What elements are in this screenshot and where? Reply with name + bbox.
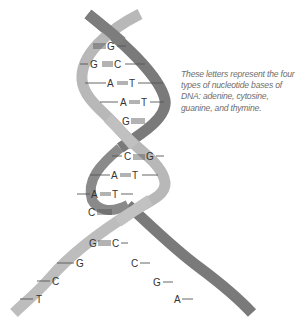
base-label: A: [91, 189, 98, 200]
base-label: G: [89, 238, 97, 249]
base-label: T: [129, 78, 135, 89]
base-label: A: [174, 294, 181, 305]
diagram-caption: These letters represent the four types o…: [181, 69, 301, 114]
base-label: G: [76, 258, 84, 269]
base-label: T: [132, 170, 138, 181]
base-label: C: [52, 276, 59, 287]
dark-strand-middle: [91, 148, 128, 210]
base-label: G: [107, 41, 115, 52]
base-label: A: [120, 97, 127, 108]
base-label: G: [146, 151, 154, 162]
base-label: G: [90, 59, 98, 70]
dark-strand-upper: [88, 14, 165, 148]
dna-helix-diagram: G G C A T A T G C G A T A T C G C G C T …: [0, 0, 305, 323]
base-label: C: [88, 207, 95, 218]
dark-strand-lower: [128, 205, 252, 313]
base-label: A: [111, 170, 118, 181]
base-label: C: [131, 258, 138, 269]
base-label: C: [114, 59, 121, 70]
base-label: C: [112, 238, 119, 249]
light-strand-lower: [14, 212, 132, 313]
base-label: C: [124, 151, 131, 162]
base-label: T: [141, 97, 147, 108]
base-label: G: [153, 277, 161, 288]
base-label: A: [107, 78, 114, 89]
base-label: T: [36, 294, 42, 305]
base-label: T: [112, 189, 118, 200]
base-label: G: [122, 116, 130, 127]
